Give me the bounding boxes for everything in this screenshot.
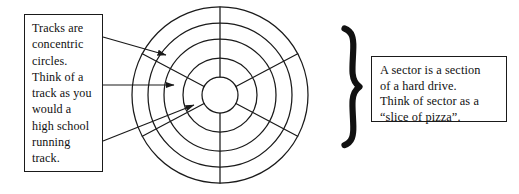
sectors-callout: A sector is a section of a hard drive. T… — [371, 56, 507, 122]
tracks-callout-text: Tracks are concentric circles. Think of … — [32, 20, 98, 167]
tracks-callout: Tracks are concentric circles. Think of … — [24, 14, 103, 172]
disk-platter-diagram: Tracks are concentric circles. Think of … — [0, 0, 519, 194]
curly-brace-icon — [345, 29, 360, 146]
sectors-callout-text: A sector is a section of a hard drive. T… — [380, 63, 500, 125]
